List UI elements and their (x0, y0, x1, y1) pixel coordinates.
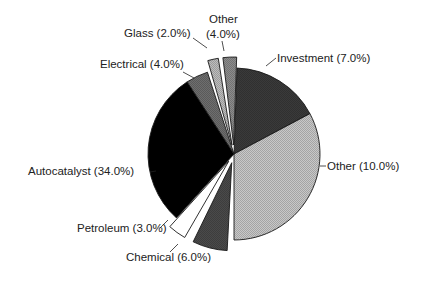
leader-line-glass (193, 38, 207, 48)
leader-line-investment (266, 58, 276, 66)
label-chemical: Chemical (6.0%) (126, 251, 211, 263)
leader-line-electrical (183, 72, 194, 78)
leader-line-other-small (222, 41, 224, 51)
pie-chart: Investment (7.0%) Other (10.0%) Chemical… (0, 0, 423, 282)
label-other-small-line1: Other (209, 13, 238, 25)
label-investment: Investment (7.0%) (277, 52, 370, 64)
label-autocatalyst: Autocatalyst (34.0%) (28, 165, 134, 177)
label-petroleum: Petroleum (3.0%) (77, 222, 167, 234)
label-other-large: Other (10.0%) (327, 160, 399, 172)
label-other-small-line2: (4.0%) (206, 28, 240, 40)
label-electrical: Electrical (4.0%) (100, 58, 184, 70)
label-glass: Glass (2.0%) (124, 27, 191, 39)
